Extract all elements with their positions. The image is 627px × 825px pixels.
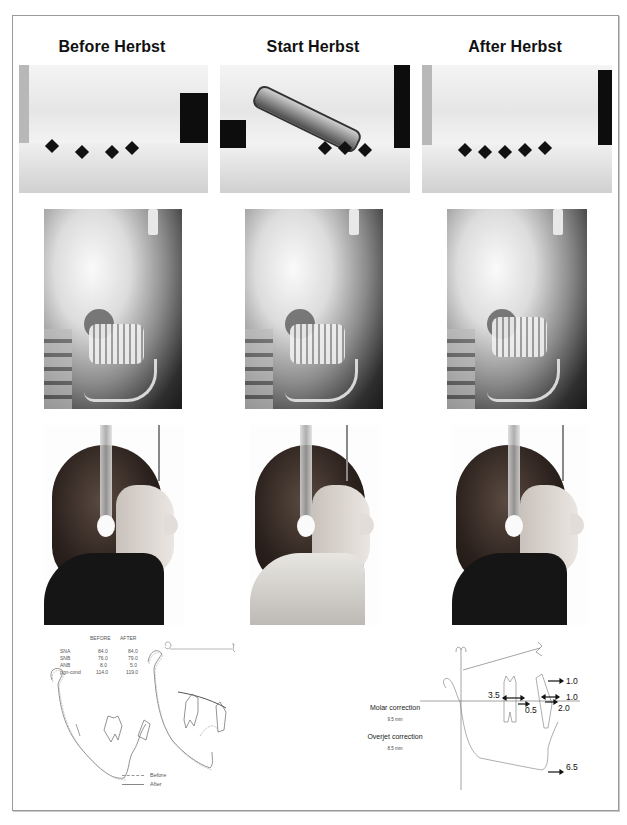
cephalogram-start [245,209,383,409]
legend-item-before: Before [150,772,166,778]
solid-line-swatch [122,784,144,785]
overjet-correction-label: Overjet correction [340,733,450,740]
sos-analysis-diagram [420,640,620,800]
cast-photo-start [220,65,410,193]
column-title-after: After Herbst [420,38,610,56]
profile-photo-after [452,425,588,625]
measure-overjet: 2.0 [558,703,570,713]
mandible-tracing-diagram [40,640,250,790]
legend-item-after: After [150,781,162,787]
profile-photo-before [44,425,184,625]
profile-photo-start [250,425,380,625]
cephalogram-before [44,209,182,409]
cast-photo-after [422,65,612,193]
molar-correction-label: Molar correction [340,704,450,711]
cast-photo-before [19,65,208,193]
dashed-line-swatch [122,775,144,776]
overjet-correction-value: 8.5 mm [340,746,450,751]
column-title-start: Start Herbst [218,38,408,56]
measure-incisor-mid: 1.0 [566,692,578,702]
measure-molar-lower: 0.5 [525,705,537,715]
cephalogram-after [447,209,587,409]
measure-molar: 3.5 [488,690,500,700]
column-title-before: Before Herbst [17,38,207,56]
measure-incisor-upper: 1.0 [566,676,578,686]
molar-correction-value: 9.5 mm [340,717,450,722]
measure-pogonion: 6.5 [566,762,578,772]
